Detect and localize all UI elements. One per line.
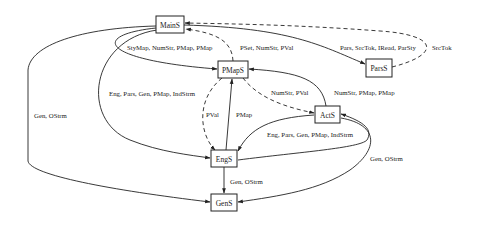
edge-label-mains-engs: Eng, Pars, Gen, PMap, IndStrm <box>109 90 196 97</box>
node-gens: GenS <box>211 194 237 211</box>
edge-label-mains-pmaps: StyMap, NumStr, PMap, PMap <box>127 44 213 51</box>
edge-label-engs-gens: Gen, OStrm <box>230 178 264 185</box>
edge-label-pmaps-acts: NumStr, PVal <box>271 89 309 96</box>
edge-label-pmaps-mains: PSet, NumStr, PVal <box>240 44 293 51</box>
edge-label-pmaps-engs: PVal <box>206 111 219 118</box>
node-parss: ParsS <box>366 59 392 77</box>
node-label-gens: GenS <box>216 199 233 208</box>
dependency-diagram: StyMap, NumStr, PMap, PMap PSet, NumStr,… <box>0 0 478 226</box>
node-pmaps: PMapS <box>218 61 248 78</box>
node-label-parss: ParsS <box>370 64 387 73</box>
node-mains: MainS <box>156 16 184 33</box>
edge-label-acts-gens: Gen, OStrm <box>370 155 404 162</box>
node-engs: EngS <box>211 150 237 167</box>
edge-label-mains-gens: Gen, OStrm <box>34 112 68 119</box>
edge-engs-to-pmaps <box>226 79 232 150</box>
node-label-pmaps: PMapS <box>222 66 244 75</box>
node-acts: ActS <box>315 106 340 123</box>
edge-label-mains-parss: Pars, SrcTok, IRead, ParSty <box>340 44 416 51</box>
node-label-mains: MainS <box>160 21 180 30</box>
node-label-engs: EngS <box>216 155 232 164</box>
edge-label-acts-pmaps: NumStr, PMap, PMap <box>334 89 395 96</box>
edge-acts-to-pmaps <box>249 69 326 106</box>
edge-label-parss-mains: SrcTok <box>432 44 452 51</box>
node-label-acts: ActS <box>320 111 335 120</box>
edge-label-engs-pmaps: PMap <box>236 111 253 118</box>
edge-label-acts-engs: Eng, Pars, Gen, PMap, IndStrm <box>267 131 354 138</box>
